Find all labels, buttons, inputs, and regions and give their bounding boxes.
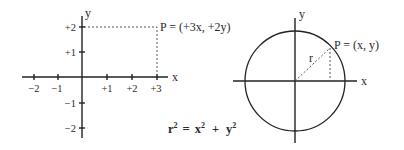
projection-lines (84, 27, 157, 75)
radius-label: r (309, 51, 313, 65)
y-tick-label: +1 (65, 47, 76, 58)
eq-lhs-exp: 2 (174, 121, 178, 130)
y-tick-label: −1 (65, 98, 76, 109)
x-axis-label: x (172, 70, 178, 84)
coordinate-diagrams: −2 −1 +1 +2 +3 +2 +1 −1 −2 x y P = (+3x,… (0, 0, 404, 150)
x-tick-label: +1 (101, 83, 112, 94)
eq-term1-exp: 2 (201, 121, 205, 130)
pythagorean-equation: r2=x2+y2 (168, 121, 236, 136)
x-tick-label: +3 (150, 83, 161, 94)
circle-plane: r P = (x, y) x y (233, 7, 379, 143)
y-tick-label: −2 (65, 123, 76, 134)
eq-term2-exp: 2 (232, 121, 236, 130)
eq-plus: + (212, 122, 219, 136)
x-tick-label: −2 (28, 83, 39, 94)
y-axis-label: y (299, 7, 305, 21)
point-p-label: P = (x, y) (334, 38, 379, 52)
point-p-label: P = (+3x, +2y) (160, 20, 231, 34)
y-tick-label: +2 (65, 22, 76, 33)
y-axis-label: y (85, 6, 91, 20)
x-axis-label: x (361, 74, 367, 88)
x-tick-label: +2 (126, 83, 137, 94)
equation: r2=x2+y2 (168, 121, 236, 136)
eq-equals: = (183, 122, 190, 136)
cartesian-plane: −2 −1 +1 +2 +3 +2 +1 −1 −2 x y P = (+3x,… (22, 6, 231, 138)
x-tick-label: −1 (51, 83, 62, 94)
